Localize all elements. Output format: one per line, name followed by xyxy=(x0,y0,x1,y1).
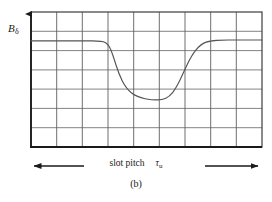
y-axis-label: Bδ xyxy=(8,23,19,36)
x-axis-symbol: τu xyxy=(156,158,163,168)
x-axis-caption: slot pitchτu xyxy=(0,158,272,170)
figure-panel-b: Bδ slot pitchτu (b) xyxy=(0,0,272,202)
x-axis-caption-text: slot pitch xyxy=(109,158,144,168)
x-axis-symbol-subscript: u xyxy=(159,162,163,170)
plot-background xyxy=(31,12,262,147)
figure-caption: (b) xyxy=(0,178,272,189)
y-axis-label-subscript: δ xyxy=(15,27,19,36)
plot-area xyxy=(0,0,272,202)
y-axis-label-symbol: B xyxy=(8,22,15,34)
